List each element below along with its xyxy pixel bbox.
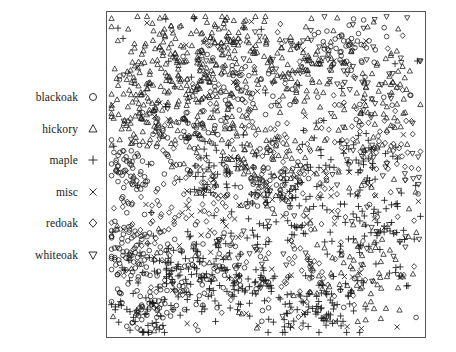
- triangle-down-marker: [86, 248, 100, 262]
- legend-item-misc: misc: [0, 185, 100, 199]
- figure-root: blackoakhickorymaplemiscredoakwhiteoak: [0, 0, 456, 352]
- legend-item-whiteoak: whiteoak: [0, 248, 100, 262]
- legend-label: hickory: [42, 122, 78, 136]
- circle-marker: [86, 90, 100, 104]
- legend-label: whiteoak: [35, 248, 78, 262]
- plus-marker: [86, 153, 100, 167]
- plot-canvas: [107, 12, 425, 337]
- series-misc: [110, 19, 421, 331]
- legend-item-maple: maple: [0, 153, 100, 167]
- cross-marker: [86, 185, 100, 199]
- legend-item-hickory: hickory: [0, 122, 100, 136]
- diamond-marker: [86, 216, 100, 230]
- triangle-up-marker: [86, 122, 100, 136]
- legend-item-blackoak: blackoak: [0, 90, 100, 104]
- legend-label: misc: [56, 185, 78, 199]
- legend: blackoakhickorymaplemiscredoakwhiteoak: [0, 0, 106, 352]
- legend-label: maple: [49, 153, 78, 167]
- plot-frame: [106, 11, 426, 338]
- legend-item-redoak: redoak: [0, 216, 100, 230]
- legend-label: blackoak: [36, 90, 78, 104]
- legend-label: redoak: [46, 216, 78, 230]
